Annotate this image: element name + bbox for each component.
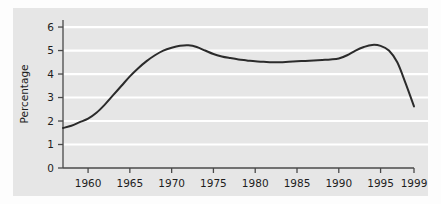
- y-axis-tick-labels-group: 0123456: [47, 21, 54, 174]
- svg-text:1999: 1999: [401, 177, 428, 189]
- svg-text:1965: 1965: [116, 177, 143, 189]
- svg-text:1970: 1970: [158, 177, 185, 189]
- svg-text:1990: 1990: [325, 177, 352, 189]
- svg-text:3: 3: [47, 91, 54, 103]
- svg-text:5: 5: [47, 44, 54, 56]
- line-chart: 0123456 19601965197019751980198519901995…: [0, 0, 441, 204]
- svg-text:6: 6: [47, 21, 54, 33]
- y-axis-title: Percentage: [18, 64, 30, 123]
- svg-text:1985: 1985: [284, 177, 311, 189]
- data-series-line: [63, 45, 414, 128]
- svg-text:1960: 1960: [75, 177, 102, 189]
- x-axis-tick-labels-group: 196019651970197519801985199019951999: [75, 177, 428, 189]
- y-axis-ticks-group: [58, 27, 63, 168]
- svg-text:1975: 1975: [200, 177, 227, 189]
- svg-text:1980: 1980: [242, 177, 269, 189]
- svg-text:2: 2: [47, 115, 54, 127]
- svg-text:1995: 1995: [367, 177, 394, 189]
- svg-text:1: 1: [47, 138, 54, 150]
- svg-text:4: 4: [47, 68, 54, 80]
- chart-figure: 0123456 19601965197019751980198519901995…: [0, 0, 441, 204]
- x-axis-ticks-group: [88, 168, 414, 173]
- svg-text:0: 0: [47, 162, 54, 174]
